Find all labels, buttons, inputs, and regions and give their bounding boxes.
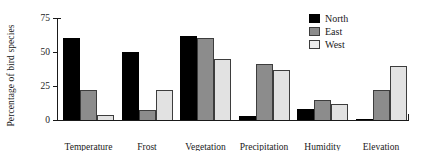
bar <box>214 59 231 120</box>
bar <box>197 38 214 120</box>
legend-label: West <box>325 40 345 50</box>
legend-label: North <box>325 14 348 24</box>
bar <box>390 66 407 120</box>
x-axis-line <box>57 120 409 121</box>
bar <box>256 64 273 120</box>
y-axis-tick-label: 25 <box>41 81 51 91</box>
bar <box>122 52 139 120</box>
y-axis-tick: 25 <box>53 86 57 87</box>
legend-item: West <box>309 39 348 50</box>
bar-chart-figure: Percentage of bird species 0255075 Tempe… <box>0 0 422 151</box>
legend-swatch <box>309 14 320 23</box>
bar <box>314 100 331 120</box>
y-axis-label: Percentage of bird species <box>0 0 22 151</box>
bar-group <box>63 18 114 120</box>
bar <box>180 36 197 120</box>
bar <box>373 90 390 120</box>
plot-area: 0255075 TemperatureFrostVegetationPrecip… <box>57 18 409 120</box>
bar <box>63 38 80 120</box>
chart-legend: NorthEastWest <box>309 13 348 50</box>
bar-group <box>239 18 290 120</box>
bar <box>139 110 156 120</box>
y-axis-tick: 0 <box>53 120 57 121</box>
y-axis-tick-label: 75 <box>41 13 51 23</box>
x-axis-tick-label: Humidity <box>304 142 340 151</box>
bar-group <box>122 18 173 120</box>
bar-group <box>180 18 231 120</box>
x-axis-tick-label: Temperature <box>65 142 113 151</box>
x-axis-tick-label: Elevation <box>363 142 399 151</box>
bar <box>156 90 173 120</box>
legend-swatch <box>309 40 320 49</box>
bar <box>331 104 348 120</box>
y-axis-tick-label: 0 <box>45 115 50 125</box>
bar <box>297 109 314 120</box>
y-axis-tick: 50 <box>53 52 57 53</box>
y-axis-top-cap <box>57 18 61 19</box>
legend-swatch <box>309 27 320 36</box>
y-axis-tick-label: 50 <box>41 47 51 57</box>
legend-item: North <box>309 13 348 24</box>
x-axis-tick-label: Precipitation <box>240 142 289 151</box>
legend-item: East <box>309 26 348 37</box>
bar <box>97 115 114 120</box>
bar <box>273 70 290 120</box>
bar <box>80 90 97 120</box>
bar-group <box>356 18 407 120</box>
x-axis-end-cap <box>408 114 409 120</box>
x-axis-tick-label: Frost <box>137 142 157 151</box>
bar <box>239 116 256 120</box>
bar <box>356 119 373 120</box>
legend-label: East <box>325 27 342 37</box>
y-axis-tick: 75 <box>53 18 57 19</box>
y-axis-line <box>57 18 58 120</box>
x-axis-tick-label: Vegetation <box>185 142 226 151</box>
